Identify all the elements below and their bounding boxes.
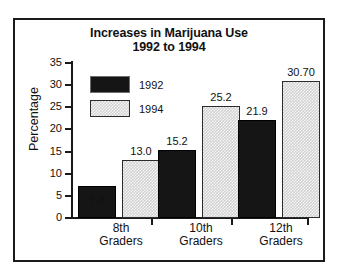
bar-1992-10th[interactable] bbox=[158, 150, 196, 218]
y-tick-20 bbox=[65, 128, 72, 130]
chart-title: Increases in Marijuana Use 1992 to 1994 bbox=[13, 26, 325, 54]
y-tick-label-15: 15 bbox=[36, 146, 62, 157]
y-tick-label-30: 30 bbox=[36, 79, 62, 90]
chart-title-line1: Increases in Marijuana Use bbox=[90, 26, 248, 40]
x-category-10th: 10th Graders bbox=[158, 222, 244, 248]
y-tick-label-35: 35 bbox=[36, 57, 62, 68]
legend-swatch-1994 bbox=[90, 100, 130, 117]
bar-value-1992-12th: 21.9 bbox=[232, 106, 282, 117]
x-category-10th-line2: Graders bbox=[158, 235, 244, 248]
bar-1992-12th[interactable] bbox=[238, 120, 276, 218]
chart-title-line2: 1992 to 1994 bbox=[13, 40, 325, 54]
y-tick-label-0: 0 bbox=[36, 212, 62, 223]
x-category-8th: 8th Graders bbox=[78, 222, 164, 248]
bar-value-1994-10th: 25.2 bbox=[196, 92, 246, 103]
x-category-12th: 12th Graders bbox=[238, 222, 324, 248]
bar-value-1994-12th: 30.70 bbox=[272, 67, 330, 78]
y-tick-5 bbox=[65, 195, 72, 197]
y-tick-label-25: 25 bbox=[36, 101, 62, 112]
legend-label-1992: 1992 bbox=[139, 79, 163, 91]
y-tick-label-5: 5 bbox=[36, 190, 62, 201]
y-tick-30 bbox=[65, 84, 72, 86]
chart-figure: Increases in Marijuana Use 1992 to 1994 … bbox=[0, 0, 338, 279]
x-category-8th-line2: Graders bbox=[78, 235, 164, 248]
y-tick-label-20: 20 bbox=[36, 123, 62, 134]
bar-value-1992-10th: 15.2 bbox=[152, 136, 202, 147]
y-tick-25 bbox=[65, 106, 72, 108]
bar-1994-8th[interactable] bbox=[122, 160, 160, 218]
y-tick-10 bbox=[65, 173, 72, 175]
y-tick-label-10: 10 bbox=[36, 168, 62, 179]
legend-swatch-1992 bbox=[90, 76, 130, 93]
legend-label-1994: 1994 bbox=[139, 103, 163, 115]
bar-1994-12th[interactable] bbox=[282, 81, 320, 218]
y-tick-15 bbox=[65, 151, 72, 153]
x-category-12th-line2: Graders bbox=[238, 235, 324, 248]
bar-value-1992-8th: 7.2 bbox=[72, 195, 122, 206]
bar-1994-10th[interactable] bbox=[202, 106, 240, 218]
y-tick-0 bbox=[65, 217, 72, 219]
y-tick-35 bbox=[65, 62, 72, 64]
